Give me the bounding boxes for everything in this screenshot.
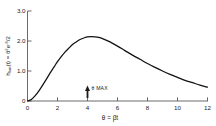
chart-figure: 0 1.0 2.0 3.0 0 2 4 6 8 10 12 θ MAX θ = … bbox=[0, 0, 216, 126]
y-label-of-t: (t) = bbox=[5, 54, 11, 67]
x-tick-label-12: 12 bbox=[204, 104, 211, 111]
theta-max-marker-stem bbox=[87, 91, 89, 99]
chart-background bbox=[0, 0, 216, 126]
x-tick-label-4: 4 bbox=[86, 104, 90, 111]
x-axis-label: θ = βt bbox=[102, 114, 119, 122]
y-tick-label-3: 3.0 bbox=[17, 7, 26, 14]
x-tick-label-6: 6 bbox=[116, 104, 120, 111]
x-tick-label-8: 8 bbox=[146, 104, 150, 111]
y-tick-label-2: 2.0 bbox=[17, 37, 26, 44]
x-tick-label-2: 2 bbox=[56, 104, 60, 111]
x-tick-label-10: 10 bbox=[174, 104, 181, 111]
y-tick-label-1: 1.0 bbox=[17, 67, 26, 74]
theta-max-label: θ MAX bbox=[92, 85, 109, 91]
y-label-over-two: /2 bbox=[5, 36, 11, 42]
x-tick-label-0: 0 bbox=[26, 104, 30, 111]
